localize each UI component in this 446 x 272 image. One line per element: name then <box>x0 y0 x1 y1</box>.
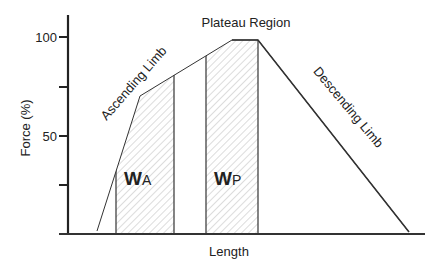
region-wa-main: W <box>124 168 142 189</box>
y-tick-label-100: 100 <box>35 30 57 45</box>
region-wa-sub: A <box>142 172 152 188</box>
force-length-diagram: 100 50 Force (%) Length Plateau Region A… <box>0 0 446 272</box>
region-wp-fill <box>206 30 258 234</box>
y-tick-label-50: 50 <box>43 129 57 144</box>
region-wa-label: WA <box>124 168 152 189</box>
region-wp-main: W <box>214 168 232 189</box>
descending-limb-label: Descending Limb <box>310 64 386 151</box>
hatched-regions <box>116 30 258 234</box>
region-wp-label: WP <box>214 168 241 189</box>
plateau-region-label: Plateau Region <box>202 15 291 30</box>
y-axis-label: Force (%) <box>18 99 33 156</box>
region-wp-sub: P <box>232 172 241 188</box>
x-axis-label: Length <box>209 244 249 259</box>
